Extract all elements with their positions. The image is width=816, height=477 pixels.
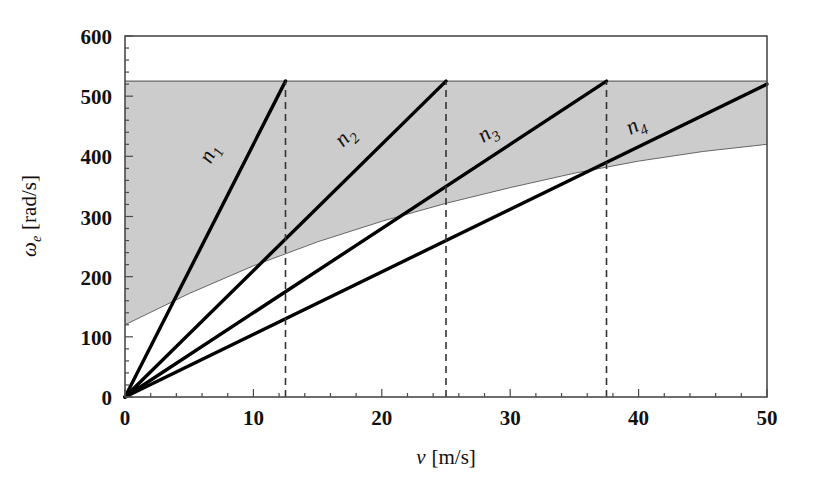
x-tick-label: 30 [500, 406, 521, 430]
x-tick-label: 20 [371, 406, 392, 430]
y-tick-label: 100 [81, 326, 113, 350]
x-tick-label: 0 [120, 406, 131, 430]
y-tick-label: 500 [81, 85, 113, 109]
y-axis-title: ωe[rad/s] [17, 175, 44, 257]
x-axis-tick-labels: 01020304050 [120, 406, 778, 430]
y-tick-label: 0 [102, 386, 113, 410]
y-tick-label: 600 [81, 25, 113, 49]
x-tick-label: 50 [757, 406, 778, 430]
y-tick-label: 200 [81, 266, 113, 290]
figure-container: 01020304050 0100200300400500600 v[m/s] ω… [0, 0, 816, 477]
y-tick-label: 300 [81, 206, 113, 230]
x-tick-label: 10 [243, 406, 264, 430]
x-tick-label: 40 [628, 406, 649, 430]
engine-speed-vs-vehicle-speed-chart: 01020304050 0100200300400500600 v[m/s] ω… [0, 0, 816, 477]
x-axis-title: v[m/s] [416, 445, 476, 469]
y-tick-label: 400 [81, 145, 113, 169]
y-axis-tick-labels: 0100200300400500600 [81, 25, 113, 410]
